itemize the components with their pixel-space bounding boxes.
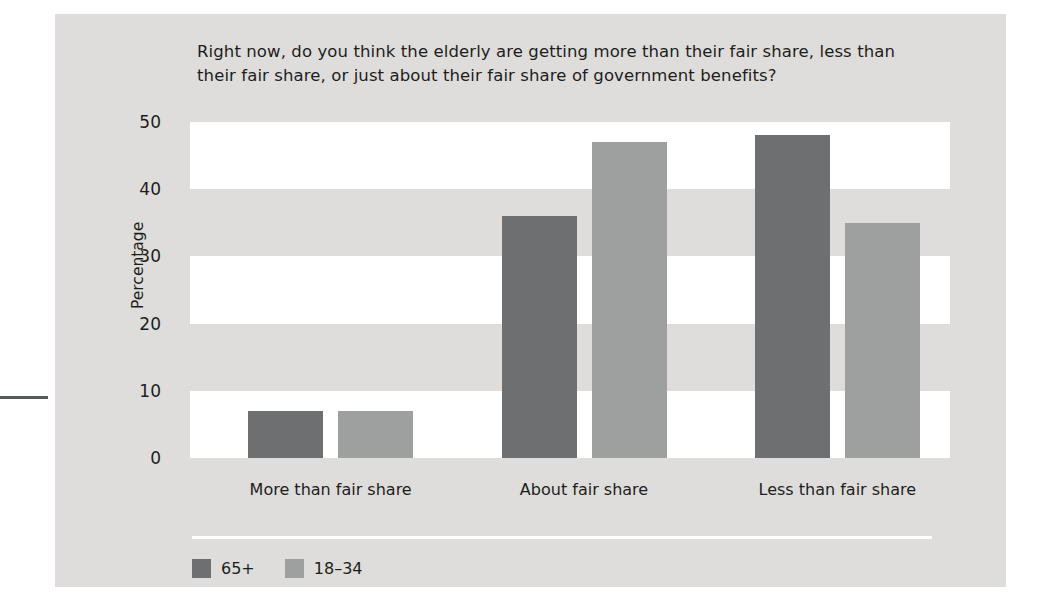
legend-divider [192, 536, 932, 539]
page-edge-rule [0, 396, 48, 399]
chart-panel: Right now, do you think the elderly are … [55, 14, 1006, 587]
plot-area [190, 122, 950, 458]
bars-layer [190, 122, 950, 458]
legend-swatch-icon [285, 559, 304, 578]
bar [755, 135, 830, 458]
bar [248, 411, 323, 458]
bar [338, 411, 413, 458]
chart-legend: 65+18–34 [192, 559, 362, 578]
y-axis-tick-label: 20 [115, 314, 161, 334]
x-axis-category-labels: More than fair shareAbout fair shareLess… [190, 480, 950, 506]
legend-swatch-icon [192, 559, 211, 578]
y-axis-tick-label: 50 [115, 112, 161, 132]
y-axis-tick-label: 10 [115, 381, 161, 401]
bar [845, 223, 920, 458]
y-axis-tick-label: 40 [115, 179, 161, 199]
legend-label: 18–34 [314, 559, 363, 578]
bar [592, 142, 667, 458]
legend-item: 65+ [192, 559, 255, 578]
legend-item: 18–34 [285, 559, 363, 578]
bar [502, 216, 577, 458]
y-axis-tick-label: 30 [115, 246, 161, 266]
x-axis-category-label: More than fair share [250, 480, 412, 499]
x-axis-category-label: About fair share [520, 480, 648, 499]
y-axis-tick-label: 0 [115, 448, 161, 468]
chart-title: Right now, do you think the elderly are … [197, 40, 909, 88]
legend-label: 65+ [221, 559, 255, 578]
x-axis-category-label: Less than fair share [759, 480, 917, 499]
